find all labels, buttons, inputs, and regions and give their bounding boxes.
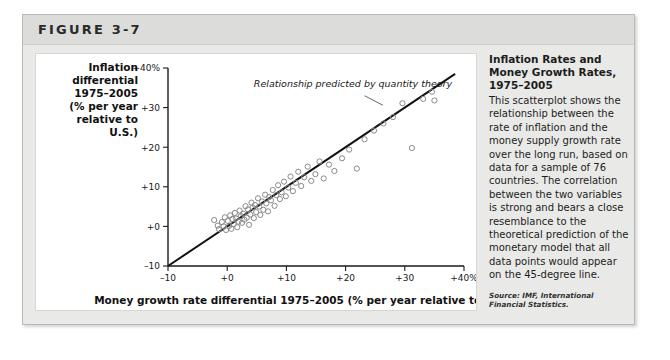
data-point: [409, 145, 414, 150]
data-point: [321, 176, 326, 181]
data-point: [354, 166, 359, 171]
data-point: [270, 187, 275, 192]
x-tick-label: +10: [277, 273, 296, 283]
reference-line-45deg: [168, 74, 455, 266]
data-point: [347, 147, 352, 152]
x-tick-label: +20: [336, 273, 355, 283]
data-point: [288, 174, 293, 179]
y-axis-title: Inflationdifferential1975–2005(% per yea…: [69, 61, 138, 138]
data-point: [313, 172, 318, 177]
y-axis-title-line: 1975–2005: [74, 87, 138, 99]
y-axis-title-line: relative to: [77, 113, 138, 125]
x-tick-label: –10: [160, 273, 176, 283]
data-point: [305, 164, 310, 169]
data-point: [432, 98, 437, 103]
data-point: [281, 179, 286, 184]
x-axis-title: Money growth rate differential 1975–2005…: [94, 294, 476, 306]
y-tick-label: +0: [147, 222, 161, 232]
y-tick-label: +20: [141, 143, 160, 153]
data-point: [212, 217, 217, 222]
y-tick-label: –10: [144, 261, 160, 271]
caption-title: Inflation Rates and Money Growth Rates, …: [489, 53, 629, 92]
caption-body: This scatterplot shows the relationship …: [489, 94, 629, 282]
x-tick-label: +0: [221, 273, 235, 283]
data-point: [283, 194, 288, 199]
data-point: [222, 215, 227, 220]
data-point: [296, 169, 301, 174]
y-axis-title-line: (% per year: [69, 100, 138, 112]
figure-caption-sidebar: Inflation Rates and Money Growth Rates, …: [489, 53, 629, 311]
data-point: [251, 215, 256, 220]
data-point: [362, 137, 367, 142]
data-point: [400, 101, 405, 106]
annotation-pointer-line: [365, 96, 383, 106]
data-point: [332, 168, 337, 173]
figure-card: FIGURE 3-7 –10+0+10+20+30+40%–10+0+10+20…: [22, 14, 635, 325]
data-point: [258, 212, 263, 217]
data-point: [272, 203, 277, 208]
data-point: [235, 225, 240, 230]
figure-number-label: FIGURE 3-7: [38, 22, 142, 37]
y-tick-label: +10: [141, 182, 160, 192]
x-tick-label: +30: [395, 273, 414, 283]
data-point: [339, 156, 344, 161]
data-point: [421, 96, 426, 101]
data-point: [326, 162, 331, 167]
y-axis-title-line: Inflation: [88, 61, 138, 73]
y-axis-title-line: U.S.): [109, 126, 138, 138]
y-axis-title-line: differential: [72, 74, 138, 86]
figure-header-band: FIGURE 3-7: [23, 15, 634, 45]
chart-panel: –10+0+10+20+30+40%–10+0+10+20+30+40%Infl…: [35, 53, 477, 311]
data-point: [277, 196, 282, 201]
data-point: [317, 159, 322, 164]
data-point: [265, 209, 270, 214]
y-tick-label: +30: [141, 103, 160, 113]
data-point: [290, 189, 295, 194]
data-point: [276, 183, 281, 188]
scatterplot: –10+0+10+20+30+40%–10+0+10+20+30+40%Infl…: [36, 54, 476, 310]
annotation-label: Relationship predicted by quantity theor…: [254, 78, 453, 89]
data-point: [309, 178, 314, 183]
data-point: [299, 183, 304, 188]
x-tick-label: +40%: [450, 273, 476, 283]
caption-source: Source: IMF, International Financial Sta…: [489, 291, 629, 310]
data-point: [247, 222, 252, 227]
